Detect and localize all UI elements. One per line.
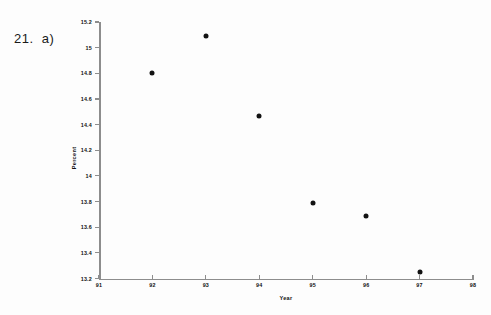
x-axis-tick-label: 92 (149, 282, 155, 288)
x-axis-tick-label: 95 (310, 282, 316, 288)
y-axis-tick-label: 13.6 (62, 224, 92, 230)
y-axis-tick-label: 14.6 (62, 96, 92, 102)
data-point (417, 270, 422, 275)
y-axis-tick-label: 14 (62, 173, 92, 179)
y-axis-tick-label: 15.2 (62, 19, 92, 25)
y-axis-tick (95, 73, 99, 74)
x-axis-tick (312, 275, 313, 279)
x-axis-tick (419, 275, 420, 279)
y-axis-tick (95, 124, 99, 125)
x-axis-tick (152, 275, 153, 279)
y-axis-tick (95, 21, 99, 22)
x-axis-tick (259, 275, 260, 279)
y-axis-tick-label: 14.8 (62, 70, 92, 76)
y-axis-tick-label: 15 (62, 45, 92, 51)
x-axis-title: Year (279, 295, 292, 301)
y-axis-tick-label: 13.8 (62, 199, 92, 205)
y-axis-title: Percent (71, 147, 77, 170)
scatter-plot: 13.213.413.613.81414.214.414.614.81515.2… (0, 0, 491, 315)
x-axis-tick-label: 94 (256, 282, 262, 288)
y-axis-tick (95, 150, 99, 151)
y-axis-tick (95, 47, 99, 48)
y-axis-tick-label: 13.2 (62, 276, 92, 282)
scanned-page: 21. a) 13.213.413.613.81414.214.414.614.… (0, 0, 491, 315)
data-point (257, 113, 262, 118)
data-point (364, 213, 369, 218)
x-axis-tick-label: 97 (416, 282, 422, 288)
y-axis-tick (95, 98, 99, 99)
y-axis-tick (95, 252, 99, 253)
y-axis-tick (95, 201, 99, 202)
y-axis-tick-label: 13.4 (62, 250, 92, 256)
x-axis-tick (205, 275, 206, 279)
data-point (150, 71, 155, 76)
data-point (310, 200, 315, 205)
y-axis-line (99, 22, 101, 279)
x-axis-tick-label: 96 (363, 282, 369, 288)
data-point (203, 34, 208, 39)
x-axis-tick-label: 98 (470, 282, 476, 288)
x-axis-tick (366, 275, 367, 279)
x-axis-tick-label: 91 (96, 282, 102, 288)
y-axis-tick (95, 227, 99, 228)
y-axis-tick-label: 14.4 (62, 122, 92, 128)
x-axis-tick-label: 93 (203, 282, 209, 288)
x-axis-tick (472, 275, 473, 279)
x-axis-line (99, 279, 474, 280)
y-axis-tick (95, 175, 99, 176)
x-axis-tick (98, 275, 99, 279)
